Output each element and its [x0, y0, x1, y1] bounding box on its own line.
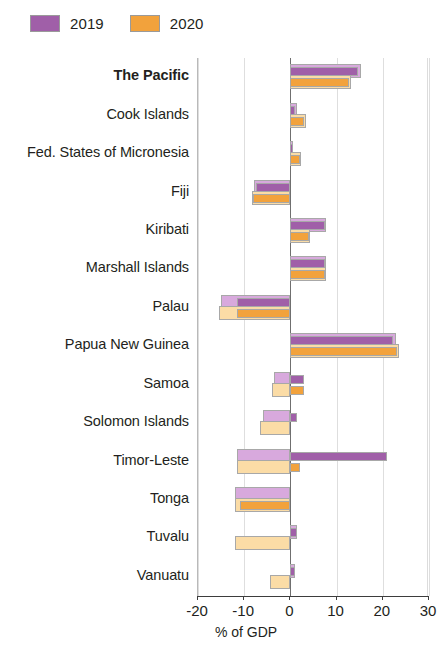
gridline	[337, 58, 338, 596]
x-axis-tick	[382, 596, 383, 600]
bar-2019-front	[290, 144, 292, 153]
legend-label-2019: 2019	[70, 15, 104, 32]
gridline	[198, 58, 199, 596]
bar-2020-front	[290, 463, 299, 472]
category-label: Solomon Islands	[83, 413, 189, 429]
bar-2019-front	[290, 567, 295, 576]
bar-2020-back	[235, 536, 290, 550]
bar-2020-front	[290, 386, 304, 395]
zero-axis-line	[290, 58, 291, 596]
bar-2020-back	[272, 383, 290, 397]
x-axis-tick-label: 20	[362, 602, 402, 619]
bar-2020-front	[290, 347, 396, 356]
bar-2020-front	[290, 270, 325, 279]
category-label: Tuvalu	[147, 528, 189, 544]
bar-2020-back	[270, 575, 291, 589]
x-axis-tick-label: 0	[269, 602, 309, 619]
chart-legend: 2019 2020	[30, 10, 204, 36]
category-label: Timor-Leste	[113, 452, 189, 468]
category-label: The Pacific	[114, 67, 189, 83]
bar-2019-front	[290, 221, 325, 230]
x-axis-tick	[197, 596, 198, 600]
category-label: Samoa	[144, 375, 189, 391]
bar-2019-front	[290, 413, 297, 422]
category-label: Marshall Islands	[86, 259, 189, 275]
legend-label-2020: 2020	[170, 15, 204, 32]
category-label: Vanuatu	[137, 567, 189, 583]
bar-2019-front	[290, 375, 304, 384]
x-axis-tick	[243, 596, 244, 600]
category-label: Fed. States of Micronesia	[27, 144, 189, 160]
x-axis-tick-label: 30	[408, 602, 441, 619]
bar-2020-front	[290, 117, 304, 126]
x-axis-tick	[428, 596, 429, 600]
bar-2019-front	[290, 259, 325, 268]
bar-2020-back	[237, 460, 290, 474]
bar-2019-front	[290, 106, 295, 115]
x-axis-line	[197, 596, 428, 597]
bar-2020-front	[240, 501, 291, 510]
x-axis-tick	[289, 596, 290, 600]
bar-2019-front	[290, 336, 393, 345]
x-axis-title-text: % of GDP	[215, 624, 277, 640]
category-label: Cook Islands	[106, 106, 189, 122]
bar-2020-front	[290, 155, 299, 164]
gridline	[429, 58, 430, 596]
bar-2019-front	[256, 183, 291, 192]
legend-entry-2020: 2020	[130, 15, 204, 32]
bar-2019-front	[290, 528, 297, 537]
category-label: Palau	[152, 298, 189, 314]
legend-swatch-2020	[130, 15, 160, 32]
x-axis-tick	[336, 596, 337, 600]
category-label: Tonga	[150, 490, 189, 506]
bar-2020-front	[237, 309, 290, 318]
legend-entry-2019: 2019	[30, 15, 104, 32]
bar-2020-front	[253, 194, 290, 203]
x-axis-tick-label: -20	[177, 602, 217, 619]
category-label: Kiribati	[145, 221, 189, 237]
x-axis-tick-label: -10	[223, 602, 263, 619]
bar-2019-front	[290, 67, 358, 76]
bar-2020-front	[290, 78, 349, 87]
x-axis-tick-label: 10	[316, 602, 356, 619]
gridline	[244, 58, 245, 596]
legend-swatch-2019	[30, 15, 60, 32]
bar-2020-front	[290, 232, 308, 241]
bar-2020-back	[260, 421, 290, 435]
gridline	[383, 58, 384, 596]
plot-area	[197, 58, 428, 596]
bar-2019-front	[290, 452, 387, 461]
category-label: Papua New Guinea	[65, 336, 189, 352]
x-axis-title: % of GDP	[0, 624, 432, 640]
bar-2019-front	[237, 298, 290, 307]
category-label: Fiji	[171, 183, 189, 199]
